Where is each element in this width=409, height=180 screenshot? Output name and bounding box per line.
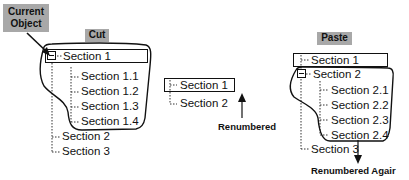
collapse-toggle-icon[interactable]	[297, 69, 306, 78]
paste-tree-item-section-1[interactable]: Section 1	[311, 54, 359, 67]
paste-tree-item-section-3[interactable]: Section 3	[311, 143, 359, 156]
tree-item-section-1-1[interactable]: Section 1.1	[81, 70, 139, 83]
paste-tree-item-section-2-2[interactable]: Section 2.2	[331, 99, 389, 112]
current-object-label: Current Object	[3, 4, 49, 32]
paste-tree-item-section-2-3[interactable]: Section 2.3	[331, 114, 389, 127]
tree-item-section-1-4[interactable]: Section 1.4	[81, 115, 139, 128]
paste-label: Paste	[317, 32, 352, 45]
paste-tree-item-section-2[interactable]: Section 2	[313, 68, 361, 81]
cut-label: Cut	[85, 29, 109, 42]
tree-item-section-2[interactable]: Section 2	[62, 130, 110, 143]
collapse-toggle-icon[interactable]	[47, 51, 56, 60]
renumbered-caption: Renumbered	[218, 121, 276, 132]
paste-tree-item-section-2-4[interactable]: Section 2.4	[331, 129, 389, 142]
middle-tree-item-section-1[interactable]: Section 1	[180, 79, 228, 92]
down-arrow-icon	[354, 155, 362, 164]
middle-tree-item-section-2[interactable]: Section 2	[180, 97, 228, 110]
renumbered-again-caption: Renumbered Agair	[311, 165, 396, 176]
tree-item-section-1[interactable]: Section 1	[63, 50, 111, 63]
tree-item-section-3[interactable]: Section 3	[62, 145, 110, 158]
paste-tree-item-section-2-1[interactable]: Section 2.1	[331, 84, 389, 97]
up-arrow-icon	[238, 93, 246, 102]
tree-item-section-1-2[interactable]: Section 1.2	[81, 85, 139, 98]
tree-item-section-1-3[interactable]: Section 1.3	[81, 100, 139, 113]
